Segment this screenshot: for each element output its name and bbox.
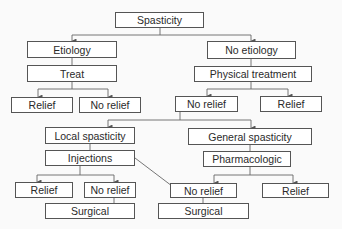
node-etiology: Etiology: [27, 41, 117, 58]
node-treat: Treat: [27, 65, 117, 82]
node-relief-l2: Relief: [15, 182, 73, 198]
node-no-etiology: No etiology: [207, 41, 296, 59]
node-injections: Injections: [45, 150, 135, 166]
node-relief-r2: Relief: [262, 183, 329, 198]
node-pharmacologic: Pharmacologic: [203, 151, 291, 167]
node-no-relief-r1: No relief: [175, 96, 238, 112]
node-spasticity: Spasticity: [115, 12, 204, 28]
node-relief-r1: Relief: [260, 96, 322, 112]
node-no-relief-r2: No relief: [170, 183, 237, 198]
node-no-relief-l1: No relief: [79, 97, 141, 113]
spasticity-flowchart: Spasticity Etiology Treat Relief No reli…: [0, 0, 342, 229]
node-surgical-r2: Surgical: [158, 203, 249, 219]
node-physical-treatment: Physical treatment: [194, 66, 312, 82]
node-local-spasticity: Local spasticity: [45, 127, 135, 144]
node-relief-l1: Relief: [11, 97, 73, 113]
node-general-spasticity: General spasticity: [188, 128, 312, 145]
node-no-relief-l2: No relief: [84, 182, 136, 198]
node-surgical-l2: Surgical: [45, 203, 135, 219]
